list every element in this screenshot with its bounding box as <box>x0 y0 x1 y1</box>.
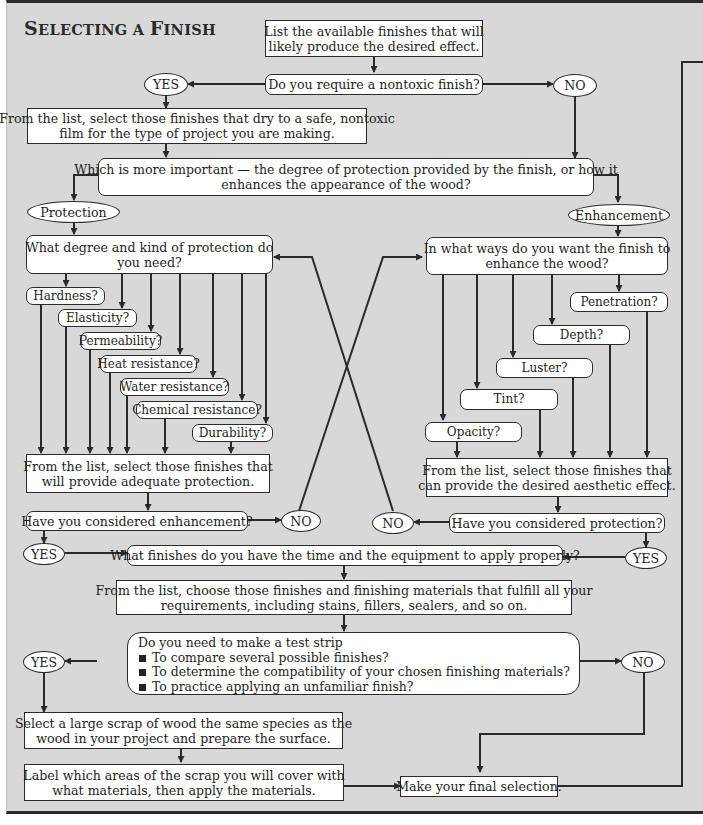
option-text: Tint? <box>494 392 525 407</box>
box-text: enhances the appearance of the wood? <box>221 177 470 192</box>
box-text: Have you considered protection? <box>452 516 663 531</box>
option-opacity: Opacity? <box>425 422 522 442</box>
protection-question: What degree and kind of protection do yo… <box>26 235 273 274</box>
enhancement-select-box: From the list, select those finishes tha… <box>426 458 668 497</box>
yes-nontoxic: YES <box>144 73 188 96</box>
time-equipment-question: What finishes do you have the time and t… <box>127 545 563 566</box>
yes-test-strip: YES <box>23 651 65 673</box>
enhancement-question: In what ways do you want the finish to e… <box>426 237 668 275</box>
option-hardness: Hardness? <box>26 287 105 305</box>
option-text: Permeability? <box>79 334 162 349</box>
option-text: Hardness? <box>33 289 98 304</box>
nontoxic-question: Do you require a nontoxic finish? <box>265 74 483 95</box>
protection-select-box: From the list, select those finishes tha… <box>26 454 270 493</box>
box-text: Select a large scrap of wood the same sp… <box>15 716 352 731</box>
test-strip-reasons: To compare several possible finishes? To… <box>138 651 570 695</box>
oval-text: Protection <box>40 205 106 220</box>
enhancement-oval: Enhancement <box>568 204 670 226</box>
box-text: What degree and kind of protection do <box>26 240 274 255</box>
box-text: what materials, then apply the materials… <box>52 783 316 798</box>
option-text: Chemical resistance? <box>132 403 262 418</box>
box-text: Do you require a nontoxic finish? <box>268 77 480 92</box>
oval-text: NO <box>382 516 403 531</box>
yes-protection: YES <box>625 547 667 569</box>
box-text: From the list, select those finishes tha… <box>0 111 395 126</box>
scrap-wood-box: Select a large scrap of wood the same sp… <box>24 712 343 749</box>
importance-question: Which is more important — the degree of … <box>98 158 594 196</box>
box-text: Make your final selection. <box>396 779 562 794</box>
option-chemical-resistance: Chemical resistance? <box>136 401 258 419</box>
list-finishes-box: List the available finishes that will li… <box>265 20 483 57</box>
option-elasticity: Elasticity? <box>58 309 137 327</box>
box-text: you need? <box>117 255 182 270</box>
option-depth: Depth? <box>533 325 630 345</box>
oval-text: YES <box>633 551 659 566</box>
box-text: List the available finishes that will <box>264 24 483 39</box>
box-text: Which is more important — the degree of … <box>74 162 618 177</box>
box-text: can provide the desired aesthetic effect… <box>418 478 675 493</box>
box-text: requirements, including stains, fillers,… <box>161 598 528 613</box>
box-text: Label which areas of the scrap you will … <box>23 768 344 783</box>
no-test-strip: NO <box>621 651 665 673</box>
test-strip-question: Do you need to make a test strip To comp… <box>127 632 580 695</box>
box-text: wood in your project and prepare the sur… <box>36 731 330 746</box>
box-text: enhance the wood? <box>485 256 608 271</box>
box-text: will provide adequate protection. <box>42 474 254 489</box>
oval-text: NO <box>564 78 585 93</box>
yes-enhancement: YES <box>23 543 65 565</box>
bullet-item: To determine the compatibility of your c… <box>152 665 570 680</box>
option-penetration: Penetration? <box>570 292 668 312</box>
no-nontoxic: NO <box>553 74 597 97</box>
option-durability: Durability? <box>192 424 273 442</box>
final-selection-box: Make your final selection. <box>400 776 558 797</box>
considered-enhancement-question: Have you considered enhancement? <box>26 511 248 531</box>
option-text: Depth? <box>560 328 603 343</box>
box-text: From the list, select those finishes tha… <box>23 459 272 474</box>
label-scrap-box: Label which areas of the scrap you will … <box>24 764 344 801</box>
nontoxic-select-box: From the list, select those finishes tha… <box>27 108 367 144</box>
box-text: film for the type of project you are mak… <box>59 126 334 141</box>
oval-text: NO <box>290 514 311 529</box>
bullet-item: To compare several possible finishes? <box>152 651 570 666</box>
box-text: From the list, choose those finishes and… <box>96 583 593 598</box>
box-text: What finishes do you have the time and t… <box>110 548 580 563</box>
option-tint: Tint? <box>460 389 558 410</box>
option-water-resistance: Water resistance? <box>120 378 229 396</box>
considered-protection-question: Have you considered protection? <box>449 513 665 533</box>
oval-text: YES <box>31 547 57 562</box>
no-enhancement: NO <box>281 510 321 532</box>
choose-finishes-box: From the list, choose those finishes and… <box>116 580 572 615</box>
protection-oval: Protection <box>27 201 120 223</box>
page-title: SELECTING A FINISH <box>24 17 216 39</box>
box-text: Have you considered enhancement? <box>21 514 252 529</box>
option-heat-resistance: Heat resistance? <box>100 355 197 373</box>
oval-text: NO <box>632 655 653 670</box>
option-permeability: Permeability? <box>80 332 161 350</box>
option-text: Water resistance? <box>120 380 229 395</box>
no-protection: NO <box>372 512 414 534</box>
option-text: Opacity? <box>447 425 500 440</box>
oval-text: YES <box>153 77 179 92</box>
bullet-item: To practice applying an unfamiliar finis… <box>152 680 570 695</box>
option-text: Elasticity? <box>66 311 129 326</box>
oval-text: Enhancement <box>575 208 663 223</box>
box-text: In what ways do you want the finish to <box>424 241 671 256</box>
option-text: Heat resistance? <box>97 357 199 372</box>
box-text: Do you need to make a test strip <box>138 636 343 651</box>
box-text: likely produce the desired effect. <box>269 39 480 54</box>
option-text: Luster? <box>522 361 568 376</box>
oval-text: YES <box>31 655 57 670</box>
option-text: Penetration? <box>580 295 657 310</box>
option-text: Durability? <box>199 426 266 441</box>
option-luster: Luster? <box>496 358 593 378</box>
box-text: From the list, select those finishes tha… <box>422 463 671 478</box>
